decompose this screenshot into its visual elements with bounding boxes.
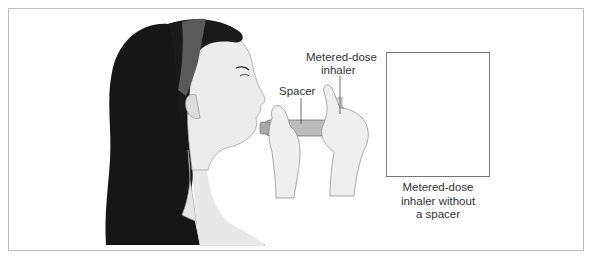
- spacer-label: Spacer: [279, 85, 315, 98]
- left-hand: [269, 106, 300, 198]
- caption-line-3: a spacer: [380, 208, 496, 222]
- woman-using-inhaler-with-spacer-illustration: [0, 0, 596, 261]
- mdi-label-line-1: Metered-dose: [306, 51, 377, 64]
- inset-box: [386, 52, 490, 177]
- right-hand: [322, 85, 369, 196]
- inset-caption: Metered-dose inhaler without a spacer: [380, 181, 496, 222]
- mdi-label-line-2: inhaler: [321, 64, 356, 77]
- caption-line-1: Metered-dose: [380, 181, 496, 195]
- caption-line-2: inhaler without: [380, 195, 496, 209]
